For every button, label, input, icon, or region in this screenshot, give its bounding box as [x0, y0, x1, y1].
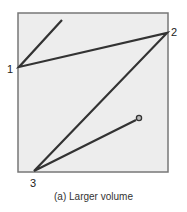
point-label-1: 1	[7, 64, 13, 75]
point-label-3: 3	[30, 178, 36, 189]
path-diagram	[0, 0, 187, 212]
point-label-2: 2	[171, 27, 177, 38]
figure-caption: (a) Larger volume	[0, 191, 187, 202]
end-point-icon	[136, 115, 141, 120]
